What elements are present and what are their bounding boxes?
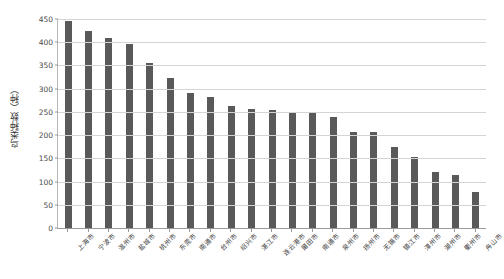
- gridline: [58, 65, 486, 66]
- y-axis-title-text: 鸟类种数（种）: [7, 85, 20, 148]
- x-tick-label: 泉州市: [341, 233, 361, 253]
- x-tick-mark: [271, 229, 272, 232]
- x-tick-mark: [353, 229, 354, 232]
- y-axis-title: 鸟类种数（种）: [2, 0, 24, 232]
- bar: [452, 175, 459, 228]
- y-tick-label: 400: [39, 38, 53, 47]
- x-tick-label: 温州市: [117, 233, 137, 253]
- y-tick-label: 350: [39, 61, 53, 70]
- y-tick-mark: [55, 204, 58, 205]
- gridline: [58, 205, 486, 206]
- y-tick-label: 0: [48, 224, 53, 233]
- y-tick-mark: [55, 181, 58, 182]
- y-tick-mark: [55, 42, 58, 43]
- y-tick-label: 300: [39, 84, 53, 93]
- x-tick-label: 上海市: [76, 233, 96, 253]
- bar: [65, 21, 72, 228]
- bar: [370, 132, 377, 228]
- y-tick-label: 150: [39, 154, 53, 163]
- x-tick-mark: [393, 229, 394, 232]
- x-tick-label: 湖州市: [443, 233, 463, 253]
- x-tick-mark: [434, 229, 435, 232]
- y-tick-mark: [55, 88, 58, 89]
- bar: [289, 112, 296, 228]
- x-tick-mark: [149, 229, 150, 232]
- y-tick-mark: [55, 135, 58, 136]
- gridline: [58, 182, 486, 183]
- y-tick-mark: [55, 158, 58, 159]
- gridline: [58, 158, 486, 159]
- y-tick-label: 50: [43, 200, 53, 209]
- gridline: [58, 42, 486, 43]
- bar: [105, 38, 112, 228]
- bar: [309, 113, 316, 228]
- x-tick-mark: [67, 229, 68, 232]
- bars-layer: [58, 19, 486, 228]
- x-tick-label: 台州市: [219, 233, 239, 253]
- x-tick-label: 舟山市: [484, 233, 504, 253]
- x-tick-mark: [169, 229, 170, 232]
- x-tick-label: 扬州市: [362, 233, 382, 253]
- x-tick-label: 绍兴市: [239, 233, 259, 253]
- bar: [187, 93, 194, 228]
- bar: [269, 110, 276, 228]
- x-tick-label: 宁波市: [97, 233, 117, 253]
- bar: [350, 132, 357, 228]
- x-tick-mark: [291, 229, 292, 232]
- x-tick-mark: [88, 229, 89, 232]
- x-tick-label: 漳州市: [423, 233, 443, 253]
- plot-area: 050100150200250300350400450: [57, 19, 486, 229]
- x-tick-mark: [251, 229, 252, 232]
- gridline: [58, 112, 486, 113]
- x-tick-label: 镇江市: [402, 233, 422, 253]
- y-tick-label: 200: [39, 131, 53, 140]
- x-tick-mark: [373, 229, 374, 232]
- bar: [207, 97, 214, 228]
- bar: [330, 117, 337, 228]
- gridline: [58, 89, 486, 90]
- x-tick-label: 南通市: [199, 233, 219, 253]
- y-tick-mark: [55, 19, 58, 20]
- x-tick-mark: [210, 229, 211, 232]
- x-tick-mark: [128, 229, 129, 232]
- x-tick-mark: [230, 229, 231, 232]
- x-tick-label: 东莞市: [178, 233, 198, 253]
- bar: [411, 157, 418, 228]
- gridline: [58, 135, 486, 136]
- y-tick-mark: [55, 111, 58, 112]
- x-tick-mark: [454, 229, 455, 232]
- bar: [248, 109, 255, 228]
- y-tick-label: 100: [39, 177, 53, 186]
- bar: [472, 192, 479, 228]
- x-tick-label: 湛江市: [260, 233, 280, 253]
- x-tick-mark: [414, 229, 415, 232]
- y-tick-label: 450: [39, 15, 53, 24]
- y-tick-label: 250: [39, 107, 53, 116]
- x-tick-label: 盐城市: [137, 233, 157, 253]
- x-tick-label: 无锡市: [382, 233, 402, 253]
- x-tick-mark: [332, 229, 333, 232]
- x-tick-mark: [108, 229, 109, 232]
- x-tick-mark: [475, 229, 476, 232]
- gridline: [58, 19, 486, 20]
- bar: [228, 106, 235, 228]
- x-tick-mark: [312, 229, 313, 232]
- y-tick-mark: [55, 65, 58, 66]
- bar: [85, 31, 92, 228]
- x-tick-label: 杭州市: [158, 233, 178, 253]
- x-tick-label: 衢州市: [464, 233, 484, 253]
- x-axis-labels: 上海市宁波市温州市盐城市杭州市东莞市南通市台州市绍兴市湛江市连云港市莆田市南通市…: [57, 229, 485, 279]
- x-tick-mark: [189, 229, 190, 232]
- x-tick-label: 南通市: [321, 233, 341, 253]
